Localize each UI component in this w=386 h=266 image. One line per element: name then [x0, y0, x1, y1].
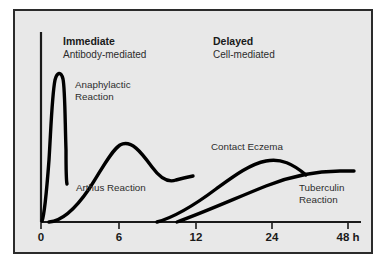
annotation-tuberculin-line1: Tuberculin — [299, 182, 344, 193]
figure-container: 0 6 12 24 48 h Immediate Antibody-mediat… — [0, 0, 386, 266]
curve-contact-eczema — [157, 160, 306, 222]
tick-label-48: 48 h — [336, 231, 359, 243]
curve-anaphylactic-reaction — [42, 73, 67, 221]
tick-label-0: 0 — [38, 231, 44, 243]
tick-label-6: 6 — [116, 231, 122, 243]
tick-label-24: 24 — [266, 231, 279, 243]
group-heading-delayed: Delayed Cell-mediated — [213, 35, 275, 60]
tick-label-12: 12 — [190, 231, 203, 243]
annotation-tuberculin-reaction: Tuberculin Reaction — [299, 182, 344, 205]
annotation-anaphylactic-line1: Anaphylactic — [75, 79, 131, 90]
annotation-arthus-reaction: Arthus Reaction — [76, 182, 146, 193]
heading-delayed-title: Delayed — [213, 35, 253, 47]
heading-delayed-subtitle: Cell-mediated — [213, 49, 275, 60]
group-heading-immediate: Immediate Antibody-mediated — [63, 35, 146, 60]
annotation-anaphylactic-line2: Reaction — [75, 91, 114, 102]
x-axis-tick-labels: 0 6 12 24 48 h — [38, 231, 360, 243]
heading-immediate-title: Immediate — [63, 35, 115, 47]
annotation-tuberculin-line2: Reaction — [299, 194, 338, 205]
annotation-anaphylactic-reaction: Anaphylactic Reaction — [75, 79, 131, 102]
chart-canvas: 0 6 12 24 48 h Immediate Antibody-mediat… — [0, 0, 386, 266]
heading-immediate-subtitle: Antibody-mediated — [63, 49, 146, 60]
annotation-contact-eczema: Contact Eczema — [211, 141, 283, 152]
